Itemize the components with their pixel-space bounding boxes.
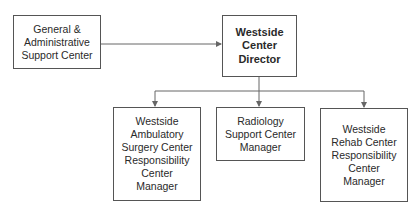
node-radiology-support-center-manager: Radiology Support Center Manager (216, 107, 305, 161)
node-label-line: Support Center (21, 49, 92, 62)
node-label-line: Westside (235, 26, 283, 40)
node-label-line: Center (242, 39, 277, 53)
node-westside-center-director: Westside Center Director (222, 15, 297, 77)
node-label-line: Radiology (237, 115, 284, 128)
node-label-line: Responsibility (332, 149, 397, 162)
node-label-line: Manager (240, 141, 281, 154)
node-label-line: Support Center (225, 128, 296, 141)
org-chart-diagram: General & Administrative Support Center … (0, 0, 418, 212)
node-general-administrative-support-center: General & Administrative Support Center (13, 15, 101, 69)
node-label-line: Center (141, 167, 173, 180)
node-label-line: Westside (136, 115, 179, 128)
node-label-line: Ambulatory (130, 128, 183, 141)
node-label-line: Responsibility (125, 154, 190, 167)
node-label-line: Manager (343, 175, 384, 188)
node-label-line: Administrative (24, 36, 90, 49)
node-label-line: Center (348, 162, 380, 175)
node-ambulatory-surgery-center-manager: Westside Ambulatory Surgery Center Respo… (113, 107, 201, 201)
node-label-line: Rehab Center (331, 136, 396, 149)
node-label-line: General & (33, 23, 80, 36)
node-label-line: Director (238, 53, 280, 67)
node-rehab-center-manager: Westside Rehab Center Responsibility Cen… (320, 108, 408, 202)
node-label-line: Surgery Center (121, 141, 192, 154)
node-label-line: Westside (343, 123, 386, 136)
node-label-line: Manager (136, 180, 177, 193)
